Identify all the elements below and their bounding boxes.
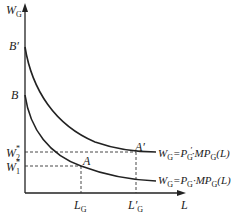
lower-curve-label: WG=PG·MPG(L): [158, 175, 231, 189]
lg-label: LG: [74, 199, 86, 214]
b-prime-label: B′: [9, 40, 19, 52]
point-a-prime-label: A′: [135, 141, 145, 153]
w1-label: W1*: [6, 159, 20, 176]
b-label: B: [11, 89, 18, 101]
x-axis-arrow-icon: [177, 190, 186, 196]
y-axis-arrow-icon: [22, 3, 28, 12]
upper-curve-label: WG=PG′·MPG(L): [158, 146, 230, 162]
lg-prime-label: L′G: [128, 199, 143, 214]
y-axis-label: WG: [6, 4, 22, 19]
x-axis-label: L: [181, 199, 188, 211]
upper-mp-curve: [25, 47, 156, 152]
point-a-label: A: [83, 155, 90, 167]
